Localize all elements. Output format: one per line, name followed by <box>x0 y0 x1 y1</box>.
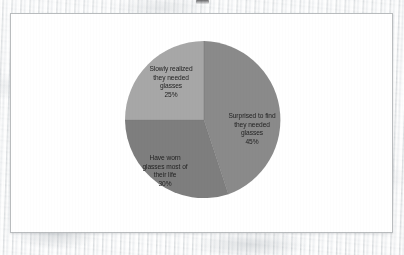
pie-label-percent: 30% <box>122 180 208 189</box>
pie-label-line-1: Surprised to find <box>209 112 295 121</box>
pie-label-line-1: Have worn <box>122 154 208 163</box>
pie-label-have-worn-most-of-life: Have worn glasses most of their life 30% <box>122 154 208 188</box>
cropped-title-remnant <box>196 0 209 4</box>
pie-label-percent: 45% <box>209 138 295 147</box>
plot-area: Slowly realized they needed glasses 25% … <box>11 14 392 232</box>
scanned-page: Slowly realized they needed glasses 25% … <box>0 0 404 255</box>
pie-label-line-3: glasses <box>209 129 295 138</box>
chart-panel: Slowly realized they needed glasses 25% … <box>10 13 393 233</box>
pie-label-line-2: they needed <box>130 74 212 83</box>
pie-label-line-3: glasses <box>130 82 212 91</box>
pie-label-line-3: their life <box>122 171 208 180</box>
pie-label-line-2: glasses most of <box>122 163 208 172</box>
pie-label-line-1: Slowly realized <box>130 65 212 74</box>
pie-label-slowly-realized: Slowly realized they needed glasses 25% <box>130 65 212 99</box>
pie-label-line-2: they needed <box>209 121 295 130</box>
pie-label-percent: 25% <box>130 91 212 100</box>
pie-label-surprised-to-find: Surprised to find they needed glasses 45… <box>209 112 295 146</box>
